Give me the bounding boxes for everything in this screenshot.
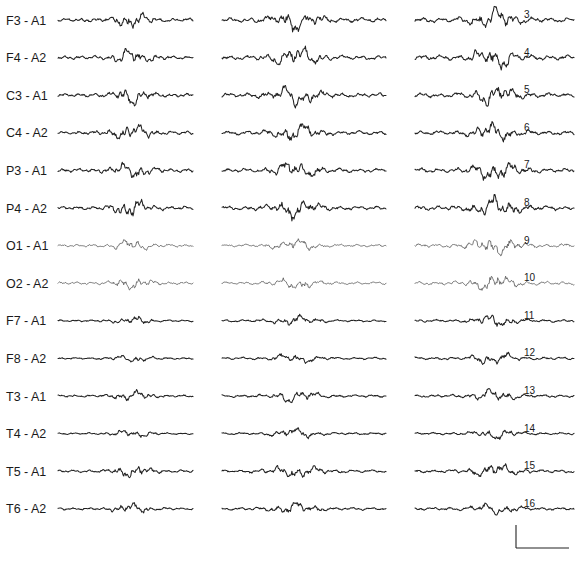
eeg-trace-1 (58, 162, 193, 177)
eeg-trace-1 (58, 240, 193, 251)
eeg-trace-2 (222, 392, 386, 402)
channel-number: 14 (524, 423, 536, 434)
channel-labels: F3 - A1F4 - A2C3 - A1C4 - A2P3 - A1P4 - … (6, 14, 48, 517)
channel-number: 7 (524, 159, 530, 170)
channel-label: C4 - A2 (6, 126, 48, 140)
eeg-trace-1 (58, 90, 193, 106)
channel-number: 13 (524, 385, 536, 396)
eeg-trace-1 (58, 12, 193, 28)
eeg-trace-3 (415, 430, 574, 439)
eeg-trace-2 (222, 15, 386, 32)
eeg-trace-3 (415, 122, 574, 142)
channel-label: F7 - A1 (6, 314, 46, 328)
eeg-trace-2 (222, 201, 386, 221)
eeg-trace-3 (415, 195, 574, 216)
channel-number: 9 (524, 235, 530, 246)
eeg-trace-3 (415, 6, 574, 27)
eeg-trace-3 (415, 163, 574, 181)
eeg-trace-2 (222, 46, 386, 65)
channel-number: 10 (524, 272, 536, 283)
eeg-trace-2 (222, 354, 386, 364)
eeg-trace-2 (222, 428, 386, 439)
eeg-trace-1 (58, 430, 193, 437)
eeg-trace-3 (415, 276, 574, 290)
channel-number: 6 (524, 122, 530, 133)
channel-label: T3 - A1 (6, 390, 46, 404)
channel-label: F4 - A2 (6, 51, 46, 65)
eeg-trace-3 (415, 464, 574, 477)
eeg-trace-3 (415, 87, 574, 106)
eeg-trace-1 (58, 316, 193, 323)
channel-number: 15 (524, 460, 536, 471)
channel-number: 8 (524, 197, 530, 208)
eeg-trace-3 (415, 503, 574, 515)
eeg-trace-1 (58, 503, 193, 513)
eeg-trace-3 (415, 352, 574, 364)
channel-label: P4 - A2 (6, 202, 47, 216)
eeg-trace-2 (222, 314, 386, 325)
channel-label: T6 - A2 (6, 502, 46, 516)
eeg-trace-1 (58, 467, 193, 478)
eeg-trace-2 (222, 503, 386, 512)
channel-label: F3 - A1 (6, 14, 46, 28)
eeg-trace-3 (415, 389, 574, 401)
eeg-trace-3 (415, 240, 574, 256)
eeg-trace-2 (222, 239, 386, 251)
eeg-trace-2 (222, 163, 386, 177)
eeg-trace-1 (58, 124, 193, 138)
eeg-figure: F3 - A1F4 - A2C3 - A1C4 - A2P3 - A1P4 - … (0, 0, 580, 563)
eeg-trace-3 (415, 50, 574, 70)
eeg-trace-2 (222, 124, 386, 140)
eeg-trace-1 (58, 390, 193, 401)
eeg-trace-2 (222, 278, 386, 288)
eeg-trace-1 (58, 355, 193, 362)
eeg-trace-1 (58, 279, 193, 290)
channel-number: 16 (524, 498, 536, 509)
eeg-trace-3 (415, 315, 574, 326)
eeg-trace-2 (222, 466, 386, 478)
eeg-traces (58, 6, 574, 515)
eeg-trace-1 (58, 199, 193, 216)
channel-number: 11 (524, 310, 535, 321)
calibration-bar (516, 525, 569, 548)
channel-number: 5 (524, 84, 530, 95)
channel-label: T5 - A1 (6, 465, 46, 479)
eeg-trace-1 (58, 49, 193, 62)
channel-label: T4 - A2 (6, 427, 46, 441)
channel-label: P3 - A1 (6, 164, 47, 178)
channel-number: 12 (524, 347, 536, 358)
eeg-trace-2 (222, 86, 386, 109)
channel-number: 3 (524, 9, 530, 20)
channel-label: C3 - A1 (6, 89, 48, 103)
channel-label: F8 - A2 (6, 352, 46, 366)
channel-label: O1 - A1 (6, 239, 48, 253)
channel-label: O2 - A2 (6, 277, 48, 291)
channel-number: 4 (524, 47, 530, 58)
